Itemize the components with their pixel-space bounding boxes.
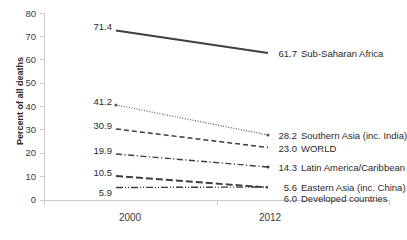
value-label-start-latin-america-caribbean: 19.9 (78, 146, 112, 156)
value-label-end-eastern-asia: 5.6 (271, 183, 297, 193)
series-marker-southern-asia-end (266, 133, 269, 136)
series-marker-southern-asia-start (114, 103, 117, 106)
series-line-sub-saharan-africa (116, 31, 268, 54)
series-label-world: WORLD (301, 144, 336, 154)
series-label-latin-america-caribbean: Latin America/Caribbean (301, 163, 405, 173)
series-label-sub-saharan-africa: Sub-Saharan Africa (301, 49, 383, 59)
series-line-latin-america-caribbean (116, 154, 268, 167)
value-label-start-eastern-asia: 10.5 (78, 168, 112, 178)
value-label-end-southern-asia: 28.2 (271, 131, 297, 141)
series-line-southern-asia (116, 105, 268, 135)
value-label-start-developed-countries: 5.9 (78, 188, 112, 198)
value-label-start-southern-asia: 41.2 (78, 97, 112, 107)
value-label-start-sub-saharan-africa: 71.4 (78, 22, 112, 32)
value-label-start-world: 30.9 (78, 121, 112, 131)
value-label-end-developed-countries: 6.0 (271, 194, 297, 204)
series-label-southern-asia: Southern Asia (inc. India) (301, 131, 407, 141)
value-label-end-world: 23.0 (271, 144, 297, 154)
series-line-eastern-asia (116, 176, 268, 188)
series-marker-latin-america-end (267, 166, 270, 169)
series-label-eastern-asia: Eastern Asia (inc. China) (301, 183, 406, 193)
value-label-end-sub-saharan-africa: 61.7 (271, 49, 297, 59)
series-line-developed-countries (116, 187, 268, 188)
value-label-end-latin-america-caribbean: 14.3 (271, 163, 297, 173)
series-line-world (116, 129, 268, 148)
series-label-developed-countries: Developed countries (301, 194, 388, 204)
